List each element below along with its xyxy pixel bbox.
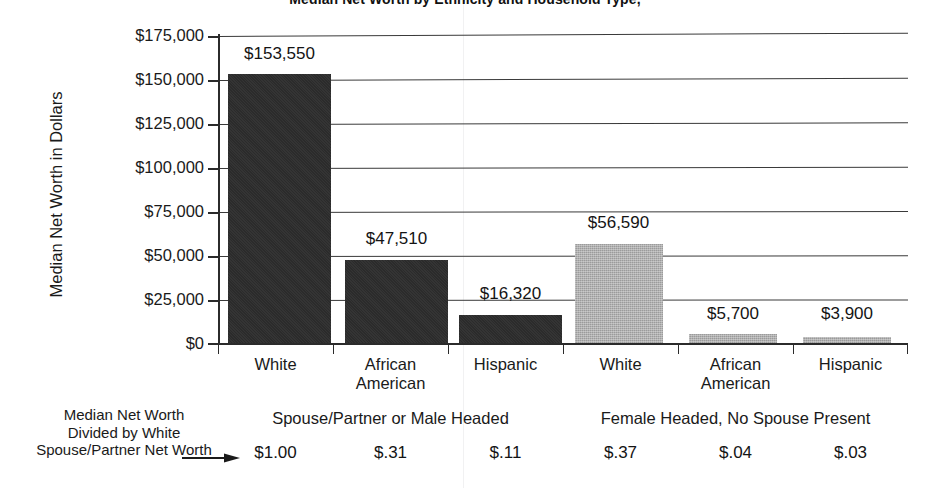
ratio-value-african-american-spouse: $.31	[333, 443, 448, 463]
annotation-arrow-icon	[182, 452, 242, 464]
group-label-spouse-partner-or-male-headed: Spouse/Partner or Male Headed	[218, 409, 563, 428]
x-category-label-white-spouse: White	[218, 355, 333, 374]
bar-value-label: $3,900	[789, 304, 905, 324]
x-category-label-hispanic-female: Hispanic	[793, 355, 908, 374]
ratio-value-white-female: $.37	[563, 443, 678, 463]
x-tick-mark	[563, 344, 564, 354]
category-text: Hispanic	[793, 355, 908, 374]
category-text-line1: African	[678, 355, 793, 374]
x-tick-mark	[678, 344, 679, 354]
category-text: Hispanic	[448, 355, 563, 374]
x-category-label-african-american-spouse: African American	[333, 355, 448, 393]
bar-value-label: $153,550	[218, 44, 341, 64]
bar-value-label: $47,510	[335, 229, 458, 249]
category-text-line1: African	[333, 355, 448, 374]
ratio-row-annotation: Median Net Worth Divided by White Spouse…	[8, 406, 240, 459]
category-text: White	[218, 355, 333, 374]
annotation-line-1: Median Net Worth	[8, 406, 240, 424]
x-tick-mark	[218, 344, 219, 354]
bar-value-label: $5,700	[675, 304, 791, 324]
category-text-line2: American	[678, 374, 793, 393]
category-text-line2: American	[333, 374, 448, 393]
x-tick-mark	[448, 344, 449, 354]
x-category-label-african-american-female: African American	[678, 355, 793, 393]
category-text: White	[563, 355, 678, 374]
bar-white-spouse[interactable]	[228, 74, 331, 344]
x-category-label-white-female: White	[563, 355, 678, 374]
x-category-label-hispanic-spouse: Hispanic	[448, 355, 563, 374]
ratio-value-african-american-female: $.04	[678, 443, 793, 463]
x-tick-mark	[907, 344, 908, 354]
bar-white-female[interactable]	[575, 244, 663, 344]
ratio-value-hispanic-female: $.03	[793, 443, 908, 463]
ratio-value-hispanic-spouse: $.11	[448, 443, 563, 463]
bar-african-american-spouse[interactable]	[345, 260, 448, 344]
annotation-line-2: Divided by White	[8, 424, 240, 442]
chart-figure: Median Net Worth by Ethnicity and Househ…	[0, 0, 930, 488]
group-label-female-headed-no-spouse-present: Female Headed, No Spouse Present	[563, 409, 908, 428]
x-tick-mark	[793, 344, 794, 354]
bar-hispanic-spouse[interactable]	[459, 315, 562, 344]
x-tick-mark	[333, 344, 334, 354]
bar-value-label: $56,590	[557, 213, 680, 233]
bar-value-label: $16,320	[449, 284, 572, 304]
